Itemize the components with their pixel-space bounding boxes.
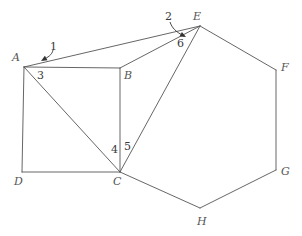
segment-A-C-diagonal — [24, 67, 120, 172]
angle-label-4: 4 — [111, 144, 118, 155]
angle-label-2: 2 — [165, 11, 172, 22]
vertex-label-G: G — [281, 166, 290, 177]
angle-label-3: 3 — [37, 70, 44, 81]
vertex-label-C: C — [113, 176, 121, 187]
vertex-label-B: B — [124, 70, 132, 81]
segments-group — [22, 26, 276, 208]
angle-label-5: 5 — [124, 141, 131, 152]
segment-H-C — [120, 172, 200, 208]
vertex-label-D: D — [14, 176, 23, 187]
vertex-label-H: H — [197, 216, 207, 227]
segment-E-F — [200, 26, 276, 70]
segment-C-E — [120, 26, 200, 172]
leader-lines-group — [41, 22, 186, 61]
vertex-label-A: A — [12, 52, 20, 63]
vertex-label-E: E — [193, 11, 201, 22]
angle-label-6: 6 — [177, 38, 184, 49]
angle-label-1: 1 — [50, 41, 57, 52]
vertex-label-F: F — [281, 62, 289, 73]
segment-D-A — [22, 67, 24, 172]
segment-A-B — [24, 67, 120, 68]
geometry-figure: A B C D E F G H 1 2 3 4 5 6 — [0, 0, 302, 236]
figure-canvas — [0, 0, 302, 236]
segment-G-H — [200, 170, 276, 208]
